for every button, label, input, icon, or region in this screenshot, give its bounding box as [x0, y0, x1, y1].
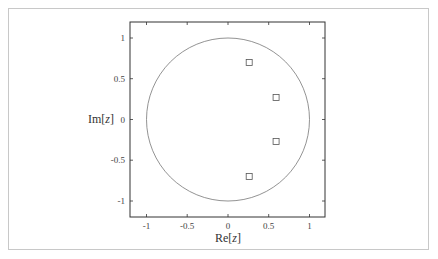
y-ticks: [130, 38, 325, 201]
plot-area: [130, 22, 325, 217]
pole-marker: [246, 174, 252, 180]
x-tick-label: 1: [307, 221, 312, 231]
pole-marker: [273, 139, 279, 145]
pole-zero-plot: -1 -0.5 0 0.5 1 1 0.5 0 -0.5 -1 Re[z] Im…: [0, 0, 438, 259]
y-tick-label: 0.5: [114, 74, 126, 84]
x-tick-label: 0: [226, 221, 231, 231]
y-tick-label: 0: [121, 115, 126, 125]
pole-marker: [246, 59, 252, 65]
x-ticks: [147, 22, 310, 217]
unit-circle: [147, 38, 310, 201]
x-tick-label: 0.5: [263, 221, 275, 231]
pole-marker: [273, 94, 279, 100]
y-tick-label: 1: [121, 33, 126, 43]
x-tick-label: -1: [143, 221, 151, 231]
x-axis-label: Re[z]: [215, 231, 241, 245]
x-tick-label: -0.5: [180, 221, 195, 231]
y-tick-label: -1: [118, 196, 126, 206]
y-axis-label: Im[z]: [88, 112, 114, 126]
y-tick-label: -0.5: [111, 155, 126, 165]
pole-markers: [246, 59, 279, 179]
